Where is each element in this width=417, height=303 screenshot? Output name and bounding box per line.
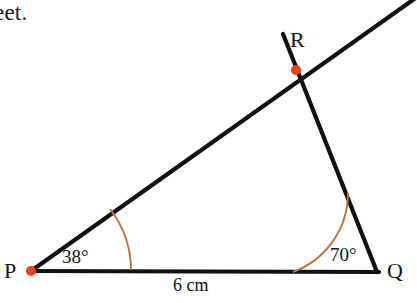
angle-label-P: 38° (62, 246, 89, 268)
segment-PQ (29, 271, 379, 272)
vertex-label-R: R (290, 27, 305, 53)
angle-arc-P (110, 209, 131, 270)
side-label-PQ: 6 cm (173, 275, 209, 296)
vertex-label-Q: Q (387, 258, 403, 284)
vertex-label-P: P (4, 258, 16, 284)
clipped-text-fragment: eet. (0, 0, 27, 26)
angle-label-Q: 70° (330, 244, 357, 266)
vertex-dot-R (291, 65, 301, 75)
vertex-dot-P (26, 266, 36, 276)
